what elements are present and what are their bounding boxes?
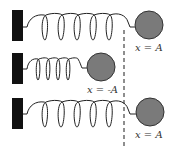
spring-diagram <box>0 0 170 149</box>
mass-2 <box>87 53 115 81</box>
label-row-2: x = -A <box>87 84 118 95</box>
wall-1 <box>12 10 23 41</box>
wall-3 <box>12 98 23 129</box>
wall-2 <box>12 53 23 84</box>
spring-2 <box>23 58 87 80</box>
spring-3 <box>23 100 136 127</box>
mass-1 <box>135 11 163 39</box>
row-3-stretched <box>12 98 164 129</box>
mass-3 <box>136 98 164 126</box>
row-1-stretched <box>12 10 163 41</box>
spring-1 <box>23 13 135 40</box>
label-row-1: x = A <box>135 42 163 53</box>
row-2-compressed <box>12 53 115 84</box>
label-row-3: x = A <box>135 129 163 140</box>
